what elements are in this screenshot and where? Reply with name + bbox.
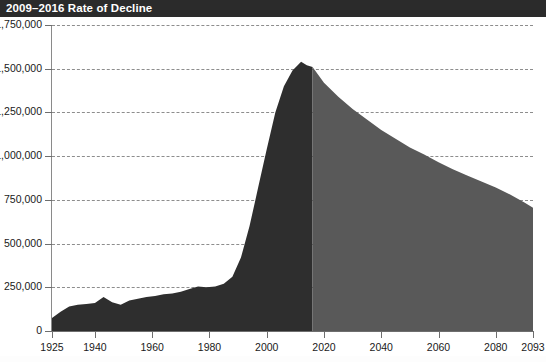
y-tick-mark [45,69,52,70]
y-tick-mark [45,287,52,288]
chart-title-bar: 2009–2016 Rate of Decline [0,0,546,17]
x-tick-label: 2020 [312,341,335,353]
x-tick-mark [209,332,210,338]
y-tick-mark [45,331,52,332]
y-tick-mark [45,112,52,113]
x-tick-label: 2080 [484,341,507,353]
y-tick-label: 750,000 [4,194,42,205]
y-tick-mark [45,25,52,26]
y-tick-label: 250,000 [4,281,42,292]
y-tick-label: 1,500,000 [0,63,42,74]
x-tick-mark [52,332,53,338]
y-tick-mark [45,200,52,201]
x-tick-mark [267,332,268,338]
chart-figure: 2009–2016 Rate of Decline 0250,000500,00… [0,0,546,362]
x-tick-mark [152,332,153,338]
page-title: 2009–2016 Rate of Decline [6,1,152,16]
y-tick-mark [45,244,52,245]
y-tick-label: 500,000 [4,238,42,249]
plot-area [52,25,533,331]
x-tick-label: 2093 [521,341,544,353]
x-tick-mark [439,332,440,338]
y-tick-label: 1,000,000 [0,150,42,161]
x-tick-mark [324,332,325,338]
x-axis-line [51,331,534,332]
y-tick-label: 1,750,000 [0,19,42,30]
series-historical-area [52,62,313,331]
x-tick-mark [381,332,382,338]
x-tick-label: 1980 [198,341,221,353]
x-tick-label: 1960 [141,341,164,353]
x-tick-mark [496,332,497,338]
x-tick-mark [95,332,96,338]
x-tick-label: 2040 [370,341,393,353]
x-tick-label: 2060 [427,341,450,353]
area-chart-series [52,25,533,331]
x-tick-mark [533,332,534,338]
y-tick-label: 1,250,000 [0,106,42,117]
bottom-margin-strip [0,356,546,362]
x-tick-label: 2000 [255,341,278,353]
x-tick-label: 1925 [40,341,63,353]
y-tick-mark [45,156,52,157]
x-tick-label: 1940 [83,341,106,353]
y-tick-label: 0 [36,325,42,336]
series-projected-area [313,67,533,331]
